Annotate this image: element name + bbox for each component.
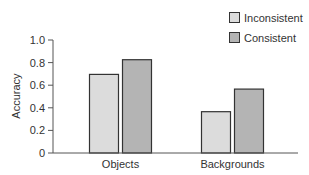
y-tick-label: 0 [39, 147, 45, 159]
bar-objects-consistent [123, 60, 152, 153]
bar-chart: InconsistentConsistent 00.20.40.60.81.0 … [0, 0, 309, 175]
bar-objects-inconsistent [90, 74, 119, 153]
y-tick-label: 0.8 [30, 57, 45, 69]
y-tick-label: 1.0 [30, 34, 45, 46]
y-axis: 00.20.40.60.81.0 [30, 34, 53, 159]
x-axis: ObjectsBackgrounds [53, 153, 298, 170]
bars [90, 60, 264, 153]
x-category-label: Backgrounds [200, 158, 265, 170]
y-tick-label: 0.6 [30, 79, 45, 91]
y-tick-label: 0.2 [30, 124, 45, 136]
legend: InconsistentConsistent [230, 12, 303, 44]
bar-backgrounds-inconsistent [202, 112, 231, 153]
legend-label-inconsistent: Inconsistent [244, 12, 303, 24]
x-category-label: Objects [102, 158, 140, 170]
legend-swatch-inconsistent [230, 13, 240, 23]
y-tick-label: 0.4 [30, 102, 45, 114]
y-axis-label: Accuracy [10, 73, 22, 119]
bar-backgrounds-consistent [235, 89, 264, 153]
legend-swatch-consistent [230, 33, 240, 43]
legend-label-consistent: Consistent [244, 32, 296, 44]
